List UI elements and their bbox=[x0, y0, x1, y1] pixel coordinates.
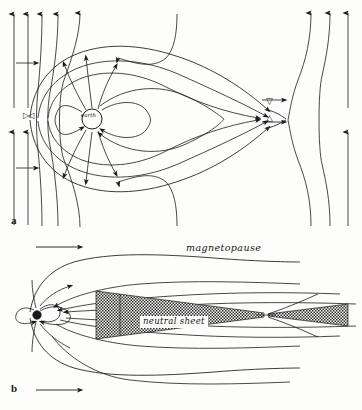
magnetopause-label: magnetopause bbox=[186, 243, 261, 253]
panel-label-a: a bbox=[11, 215, 17, 226]
tail-neutral-point-down-triangle-a: ▽ bbox=[266, 97, 273, 106]
cusp-field-lines bbox=[118, 14, 177, 226]
earth-label: earth bbox=[81, 113, 96, 118]
dayside-neutral-point-marker-a: ▷◁ bbox=[23, 112, 33, 120]
dipole-field-lines-b bbox=[16, 280, 71, 352]
earth-body-b bbox=[33, 311, 41, 319]
panel-a-closed-magnetosphere: ▽ △ bbox=[0, 0, 362, 232]
panel-label-b: b bbox=[11, 383, 17, 394]
tail-neutral-point-up-triangle-a: △ bbox=[266, 114, 273, 123]
tail-reconnected-field-lines bbox=[288, 13, 348, 226]
neutral-sheet-region-b bbox=[96, 291, 348, 339]
closed-field-lines-a bbox=[38, 61, 266, 177]
interplanetary-field-lines bbox=[14, 13, 80, 227]
neutral-sheet-label: neutral sheet bbox=[140, 316, 208, 328]
magnetosphere-figure: ▽ △ earth ▷◁ a bbox=[0, 0, 362, 410]
panel-a-drawing bbox=[0, 0, 362, 232]
